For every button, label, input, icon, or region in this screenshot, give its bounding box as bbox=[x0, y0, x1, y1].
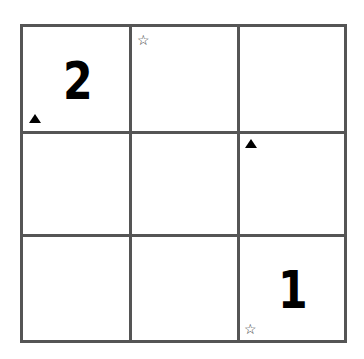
cell-value: 2 bbox=[63, 55, 93, 107]
cell-r0-c1[interactable]: ☆ bbox=[132, 27, 237, 131]
triangle-up-icon bbox=[29, 114, 41, 123]
cell-r1-c1[interactable] bbox=[132, 134, 237, 234]
puzzle-grid: 2 ☆ 1 ☆ bbox=[20, 24, 347, 343]
cell-r0-c0[interactable]: 2 bbox=[23, 27, 129, 131]
cell-r2-c1[interactable] bbox=[132, 237, 237, 340]
star-outline-icon: ☆ bbox=[244, 322, 257, 336]
cell-r1-c0[interactable] bbox=[23, 134, 129, 234]
cell-r2-c0[interactable] bbox=[23, 237, 129, 340]
cell-r1-c2[interactable] bbox=[240, 134, 347, 234]
star-outline-icon: ☆ bbox=[137, 33, 150, 47]
cell-r2-c2[interactable]: 1 ☆ bbox=[240, 237, 347, 340]
cell-r0-c2[interactable] bbox=[240, 27, 347, 131]
triangle-up-icon bbox=[245, 139, 257, 148]
cell-value: 1 bbox=[278, 264, 308, 316]
